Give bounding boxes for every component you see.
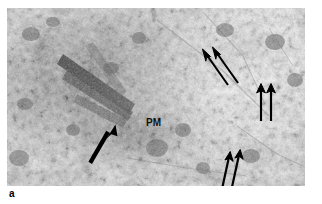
panel-letter: a: [9, 189, 15, 199]
electron-micrograph-image: PM: [7, 8, 305, 186]
micrograph-haze: [7, 8, 305, 186]
micrograph-canvas: [7, 8, 305, 186]
figure-root: PM a: [0, 0, 322, 204]
pm-label: PM: [146, 118, 161, 128]
